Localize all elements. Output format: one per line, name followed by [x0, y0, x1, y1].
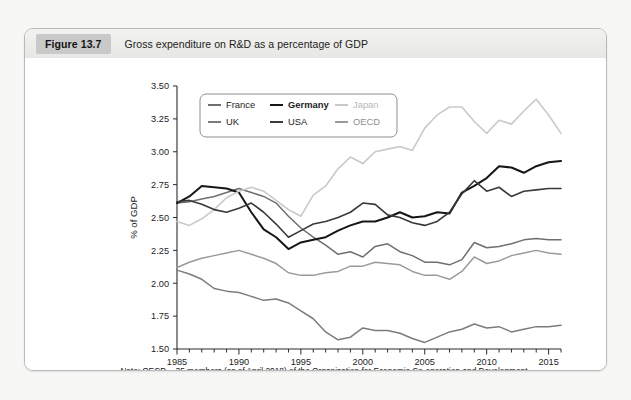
legend-label-germany: Germany — [288, 99, 329, 110]
figure-card: Figure 13.7 Gross expenditure on R&D as … — [24, 28, 607, 371]
series-line-france — [177, 189, 561, 265]
note-text: OECD = 35 members (as of April 2018) of … — [140, 366, 530, 371]
y-tick-label: 3.25 — [151, 114, 169, 124]
figure-caption-title: Gross expenditure on R&D as a percentage… — [125, 38, 368, 50]
series-line-oecd — [177, 250, 561, 279]
y-tick-label: 2.50 — [151, 213, 169, 223]
figure-header: Figure 13.7 Gross expenditure on R&D as … — [25, 29, 607, 59]
legend-label-france: France — [226, 99, 255, 110]
y-tick-label: 1.75 — [151, 311, 169, 321]
note-line: Note: OECD = 35 members (as of April 201… — [120, 365, 590, 371]
figure-notes: Note: OECD = 35 members (as of April 201… — [120, 365, 590, 371]
y-tick-label: 2.25 — [151, 246, 169, 256]
y-tick-label: 2.00 — [151, 279, 169, 289]
legend-label-uk: UK — [226, 116, 240, 127]
legend-label-usa: USA — [288, 116, 308, 127]
figure-number-badge: Figure 13.7 — [36, 34, 111, 54]
legend-label-oecd: OECD — [353, 116, 380, 127]
y-tick-label: 2.75 — [151, 180, 169, 190]
y-tick-label: 1.50 — [151, 344, 169, 354]
line-chart: 1.501.752.002.252.502.753.003.253.50% of… — [25, 58, 607, 371]
y-axis-title: % of GDP — [128, 196, 139, 239]
series-line-germany — [177, 161, 561, 249]
note-label: Note: — [120, 366, 140, 371]
y-tick-label: 3.50 — [151, 81, 169, 91]
y-tick-label: 3.00 — [151, 147, 169, 157]
legend-label-japan: Japan — [353, 99, 379, 110]
page-root: Figure 13.7 Gross expenditure on R&D as … — [0, 0, 631, 400]
series-line-uk — [177, 270, 561, 342]
series-line-usa — [177, 181, 561, 238]
chart-area: 1.501.752.002.252.502.753.003.253.50% of… — [25, 58, 607, 371]
